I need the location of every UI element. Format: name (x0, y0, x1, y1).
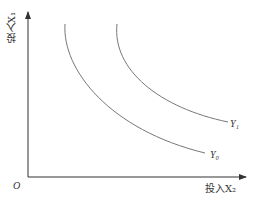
origin-label: O (13, 181, 20, 191)
y-axis-label: 投入X₁ (4, 12, 19, 43)
isoquant-diagram (0, 0, 253, 209)
curve-label-y1: Y₁ (230, 119, 239, 129)
isoquant-y0 (65, 24, 205, 153)
x-axis-label: 投入X₂ (205, 184, 236, 194)
isoquant-y1 (117, 24, 228, 122)
curve-label-y0: Y₀ (210, 150, 219, 160)
